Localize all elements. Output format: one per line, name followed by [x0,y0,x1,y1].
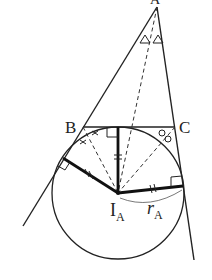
bisector-a [118,7,157,193]
angle-mark-a-left [140,35,150,43]
label-ia: IA [110,200,125,224]
angle-mark-c-1 [159,130,165,136]
label-c: C [179,118,190,137]
excircle-diagram: A B C IA [0,0,212,280]
label-b: B [65,118,76,137]
right-angle-top [107,127,118,137]
radius-left [63,158,118,193]
center-dot [116,191,120,195]
label-a: A [150,0,161,7]
angle-mark-c-2 [165,136,171,142]
line-ab-extended [23,7,157,226]
